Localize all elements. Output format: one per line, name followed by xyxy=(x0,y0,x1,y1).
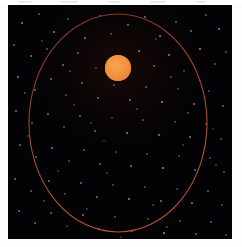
background-star xyxy=(183,70,185,72)
orbit-path-svg xyxy=(8,5,232,239)
background-star xyxy=(99,15,101,17)
background-star xyxy=(57,170,59,172)
background-star xyxy=(220,138,222,140)
background-star xyxy=(144,186,146,188)
background-star xyxy=(136,108,138,110)
background-star xyxy=(43,200,45,202)
background-star xyxy=(175,21,177,23)
background-star xyxy=(223,171,225,173)
background-star xyxy=(174,121,176,123)
background-star xyxy=(126,132,128,134)
background-star xyxy=(138,50,140,52)
background-star xyxy=(114,216,116,218)
background-star xyxy=(19,144,21,146)
background-star xyxy=(13,44,15,46)
background-star xyxy=(30,190,32,192)
background-star xyxy=(111,117,113,119)
background-star xyxy=(153,65,155,67)
background-star xyxy=(21,22,23,24)
background-star xyxy=(187,112,189,114)
background-star xyxy=(24,92,26,94)
background-star xyxy=(182,144,184,146)
background-star xyxy=(155,38,157,40)
background-star xyxy=(34,89,36,91)
background-star xyxy=(50,212,52,214)
background-star xyxy=(68,160,70,162)
background-star xyxy=(15,110,17,112)
background-star xyxy=(79,115,81,117)
background-star xyxy=(34,222,36,224)
orbit-diagram-figure xyxy=(0,0,242,247)
background-star xyxy=(115,151,117,153)
background-star xyxy=(94,130,96,132)
background-star xyxy=(131,230,133,232)
background-star xyxy=(218,28,220,30)
background-star xyxy=(27,135,29,137)
scan-artifact-mark xyxy=(18,1,32,3)
background-star xyxy=(62,64,64,66)
background-star xyxy=(225,234,227,236)
background-star xyxy=(64,193,66,195)
background-star xyxy=(177,88,179,90)
background-star xyxy=(142,119,144,121)
background-star xyxy=(120,236,122,238)
background-star xyxy=(179,220,181,222)
background-star xyxy=(128,198,130,200)
background-star xyxy=(81,82,83,84)
background-star xyxy=(86,208,88,210)
background-star xyxy=(82,214,84,216)
background-star xyxy=(144,16,146,18)
background-star xyxy=(208,90,210,92)
background-star xyxy=(66,225,68,227)
background-star xyxy=(160,200,162,202)
scan-artifact-mark xyxy=(196,1,206,3)
background-star xyxy=(166,226,168,228)
background-star xyxy=(193,103,195,105)
background-star xyxy=(210,221,212,223)
background-star xyxy=(207,190,209,192)
background-star xyxy=(31,122,33,124)
background-star xyxy=(73,104,75,106)
background-star xyxy=(35,156,37,158)
background-star xyxy=(130,165,132,167)
background-star xyxy=(221,204,223,206)
background-star xyxy=(103,140,105,142)
background-star xyxy=(96,196,98,198)
background-star xyxy=(113,84,115,86)
background-star xyxy=(14,178,16,180)
background-star xyxy=(77,52,79,54)
background-star xyxy=(48,180,50,182)
background-star xyxy=(190,30,192,32)
background-star xyxy=(222,105,224,107)
background-star xyxy=(195,233,197,235)
background-star xyxy=(50,78,52,80)
background-star xyxy=(63,126,65,128)
background-star xyxy=(163,232,165,234)
background-star xyxy=(214,63,216,65)
background-star xyxy=(205,123,207,125)
background-stars xyxy=(8,5,232,239)
scan-artifact-mark xyxy=(150,1,166,3)
background-star xyxy=(99,163,101,165)
scan-artifact-mark xyxy=(108,1,120,3)
background-star xyxy=(84,37,86,39)
background-star xyxy=(205,14,207,16)
background-star xyxy=(47,113,49,115)
background-star xyxy=(106,172,108,174)
background-star xyxy=(41,40,43,42)
background-star xyxy=(178,155,180,157)
background-star xyxy=(146,153,148,155)
background-star xyxy=(191,202,193,204)
background-star xyxy=(97,97,99,99)
background-star xyxy=(127,24,129,26)
sky-panel xyxy=(8,5,232,239)
orbit-ellipse xyxy=(29,14,207,232)
background-star xyxy=(162,167,164,169)
background-star xyxy=(69,70,71,72)
background-star xyxy=(98,228,100,230)
background-star xyxy=(215,164,217,166)
background-star xyxy=(30,55,32,57)
background-star xyxy=(145,86,147,88)
background-star xyxy=(199,48,201,50)
background-star xyxy=(90,122,92,124)
